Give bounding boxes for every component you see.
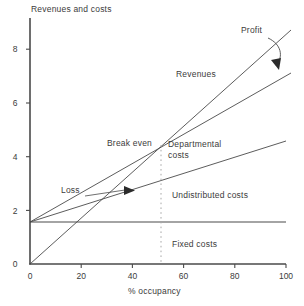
x-tick-label-80: 80	[227, 271, 243, 281]
profit-arrow-icon	[268, 38, 281, 70]
region-label-fixed-costs: Fixed costs	[172, 239, 217, 250]
series-label-revenues: Revenues	[176, 69, 216, 80]
series-line-undistributed-costs	[30, 141, 286, 222]
series-label-departmental-costs: Departmental costs	[168, 139, 230, 160]
y-tick-label-0: 0	[8, 259, 22, 269]
loss-arrow-icon	[85, 186, 135, 196]
x-tick-label-100: 100	[276, 271, 296, 281]
x-tick-label-20: 20	[73, 271, 89, 281]
x-tick-label-40: 40	[124, 271, 140, 281]
y-tick-label-6: 6	[8, 98, 22, 108]
x-tick-label-60: 60	[176, 271, 192, 281]
y-tick-label-4: 4	[8, 152, 22, 162]
y-axis-title: Revenues and costs	[31, 4, 112, 14]
x-tick-label-0: 0	[22, 271, 38, 281]
annotation-label-loss: Loss	[61, 185, 80, 196]
y-tick-label-8: 8	[8, 44, 22, 54]
y-tick-label-2: 2	[8, 206, 22, 216]
region-label-undistributed-costs: Undistributed costs	[172, 190, 248, 201]
series-label-profit: Profit	[241, 25, 262, 36]
x-axis-title: % occupancy	[128, 286, 181, 296]
chart-canvas	[0, 0, 304, 306]
annotation-label-break-even: Break even	[107, 138, 152, 149]
break-even-chart: Revenues and costs % occupancy 0 2 4 6 8…	[0, 0, 304, 306]
series-line-departmental-costs	[30, 73, 291, 222]
